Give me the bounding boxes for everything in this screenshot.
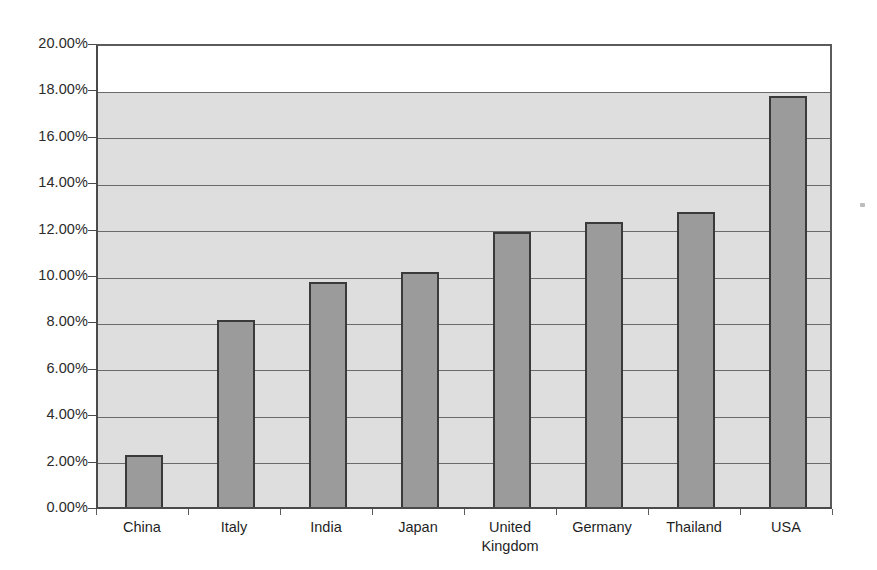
bar [217, 320, 255, 508]
x-axis-category-label: China [96, 518, 188, 537]
scan-artifact-speck [860, 203, 865, 207]
x-axis-tick [188, 509, 189, 515]
gridline [98, 324, 830, 325]
bar [493, 232, 531, 508]
y-axis-tick [88, 462, 96, 463]
gridline [98, 278, 830, 279]
y-axis-tick-label: 16.00% [38, 128, 88, 144]
gridline [98, 417, 830, 418]
y-axis-tick-label: 4.00% [46, 406, 88, 422]
x-axis-tick [464, 509, 465, 515]
y-axis-tick-label: 2.00% [46, 453, 88, 469]
y-axis-tick [88, 276, 96, 277]
y-axis-tick-label: 14.00% [38, 174, 88, 190]
gridline [98, 370, 830, 371]
y-axis-tick [88, 183, 96, 184]
plot-background-fill [98, 92, 830, 508]
x-axis-tick [740, 509, 741, 515]
gridline [98, 231, 830, 232]
bar [125, 455, 163, 508]
y-axis-tick-label: 12.00% [38, 221, 88, 237]
x-axis-tick [832, 509, 833, 515]
x-axis-category-label: Thailand [648, 518, 740, 537]
y-axis-tick [88, 369, 96, 370]
x-axis-category-label: USA [740, 518, 832, 537]
gridline [98, 463, 830, 464]
x-axis-tick [648, 509, 649, 515]
x-axis-category-label: Italy [188, 518, 280, 537]
x-axis-category-label: United Kingdom [464, 518, 556, 556]
y-axis-tick-label: 20.00% [38, 35, 88, 51]
bar [401, 272, 439, 508]
y-axis-tick [88, 137, 96, 138]
x-axis-tick [280, 509, 281, 515]
gridline [98, 138, 830, 139]
bar [309, 282, 347, 508]
x-axis-category-label: India [280, 518, 372, 537]
y-axis-tick-label: 6.00% [46, 360, 88, 376]
x-axis-category-label: Japan [372, 518, 464, 537]
bar-chart: 0.00%2.00%4.00%6.00%8.00%10.00%12.00%14.… [0, 0, 877, 570]
y-axis-tick-label: 8.00% [46, 313, 88, 329]
x-axis-tick [372, 509, 373, 515]
x-axis-tick [96, 509, 97, 515]
y-axis-tick [88, 415, 96, 416]
y-axis-tick [88, 322, 96, 323]
y-axis-tick [88, 44, 96, 45]
plot-area [96, 44, 832, 508]
y-axis-tick-label: 18.00% [38, 81, 88, 97]
bar [769, 96, 807, 508]
y-axis-tick [88, 90, 96, 91]
gridline [98, 185, 830, 186]
y-axis-tick [88, 508, 96, 509]
y-axis-tick [88, 230, 96, 231]
y-axis-tick-label: 0.00% [46, 499, 88, 515]
x-axis-category-label: Germany [556, 518, 648, 537]
gridline [98, 92, 830, 93]
x-axis-tick [556, 509, 557, 515]
y-axis-tick-label: 10.00% [38, 267, 88, 283]
bar [585, 222, 623, 508]
bar [677, 212, 715, 508]
